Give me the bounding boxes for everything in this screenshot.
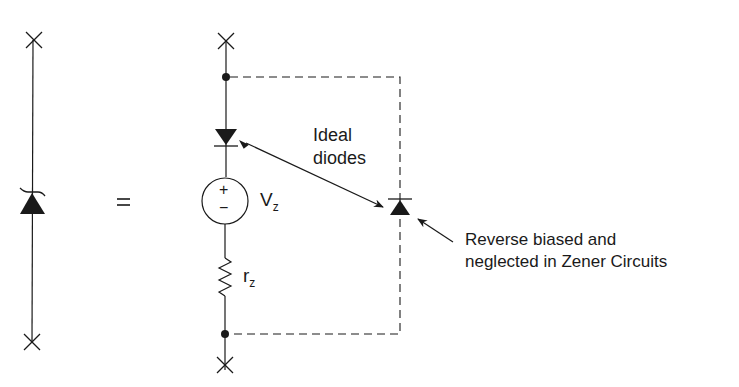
source-plus-sign: + — [219, 181, 228, 199]
equivalent-circuit — [202, 33, 453, 373]
vz-main: V — [260, 189, 273, 210]
ideal-diodes-line2: diodes — [313, 147, 366, 170]
node-dot-bottom — [221, 330, 229, 338]
dashed-branch — [230, 77, 400, 334]
note-line1: Reverse biased and — [465, 229, 667, 251]
reverse-note-arrow — [418, 219, 453, 242]
terminal-x-icon — [26, 32, 42, 48]
zener-triangle-icon — [20, 193, 45, 214]
ideal-diodes-line1: Ideal — [313, 124, 366, 147]
ideal-diodes-label: Ideal diodes — [313, 124, 366, 170]
rz-sub: z — [249, 276, 255, 290]
rz-label: rz — [243, 265, 255, 287]
circuit-diagram — [0, 0, 739, 387]
vz-sub: z — [273, 200, 279, 214]
ideal-diode-forward-icon — [215, 129, 237, 145]
reverse-note-label: Reverse biased and neglected in Zener Ci… — [465, 229, 667, 273]
vz-label: Vz — [260, 189, 279, 211]
equals-sign — [117, 199, 130, 205]
resistor-icon — [219, 258, 231, 296]
zener-diode-symbol — [20, 32, 45, 350]
node-dot-top — [222, 73, 230, 81]
ideal-diode-reverse-icon — [390, 200, 410, 215]
note-line2: neglected in Zener Circuits — [465, 251, 667, 273]
source-minus-sign: − — [219, 199, 228, 217]
